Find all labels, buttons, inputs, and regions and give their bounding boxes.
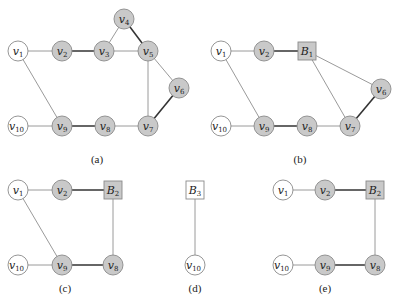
node-a-v2: v2 (52, 41, 72, 61)
panel-label-c: (c) (59, 282, 72, 295)
node-e-v9: v9 (315, 255, 335, 275)
edge-b-v1-v9 (221, 51, 264, 126)
node-b-v7: v7 (340, 116, 360, 136)
node-e-B2: B2 (366, 181, 384, 199)
node-b-v1: v1 (211, 41, 231, 61)
edge-c-v1-v9 (18, 190, 62, 265)
node-b-v6: v6 (371, 79, 391, 99)
graph-decomposition-diagram: v1v2v3v4v5v6v7v8v9v10v1v2B1v6v7v8v9v10v1… (0, 0, 396, 300)
node-a-v5: v5 (138, 41, 158, 61)
node-a-v1: v1 (8, 41, 28, 61)
node-b-v10: v10 (211, 116, 231, 136)
node-c-v2: v2 (52, 180, 72, 200)
node-a-v7: v7 (138, 116, 158, 136)
node-c-v1: v1 (8, 180, 28, 200)
node-e-v10: v10 (273, 255, 293, 275)
node-b-v2: v2 (254, 41, 274, 61)
node-a-v9: v9 (52, 116, 72, 136)
node-a-v4: v4 (114, 9, 134, 29)
panel-label-d: (d) (189, 282, 202, 295)
node-a-v6: v6 (169, 78, 189, 98)
node-e-v8: v8 (365, 255, 385, 275)
node-d-B3: B3 (186, 181, 204, 199)
node-a-v3: v3 (94, 41, 114, 61)
node-b-v9: v9 (254, 116, 274, 136)
panel-label-e: (e) (319, 282, 332, 295)
node-e-v2: v2 (315, 180, 335, 200)
node-b-B1: B1 (298, 42, 316, 60)
node-e-v1: v1 (273, 180, 293, 200)
edges-layer (18, 19, 381, 265)
node-c-v8: v8 (103, 255, 123, 275)
node-a-v8: v8 (95, 116, 115, 136)
node-b-v8: v8 (297, 116, 317, 136)
node-c-v9: v9 (52, 255, 72, 275)
node-a-v10: v10 (8, 116, 28, 136)
node-d-v10: v10 (185, 255, 205, 275)
edge-a-v1-v9 (18, 51, 62, 126)
nodes-layer: v1v2v3v4v5v6v7v8v9v10v1v2B1v6v7v8v9v10v1… (8, 9, 391, 275)
panel-label-a: (a) (91, 153, 104, 166)
node-c-B2: B2 (104, 181, 122, 199)
panel-label-b: (b) (294, 153, 307, 166)
node-c-v10: v10 (8, 255, 28, 275)
